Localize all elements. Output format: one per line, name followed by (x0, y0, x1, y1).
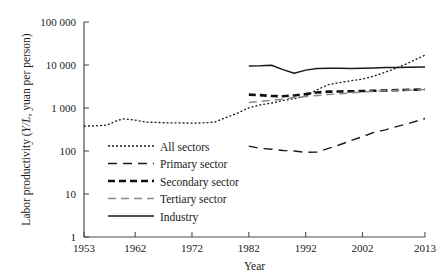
y-axis-title: Labor productivity (Y/L, yuan per person… (20, 33, 33, 225)
legend-label: Tertiary sector (160, 193, 227, 206)
y-axis-tick-label: 10 000 (46, 59, 77, 71)
legend-label: Primary sector (160, 158, 228, 171)
x-axis-tick-label: 1972 (181, 242, 203, 254)
x-axis-tick-label: 1992 (295, 242, 317, 254)
legend-item-all-sectors[interactable]: All sectors (108, 141, 210, 153)
legend-item-primary-sector[interactable]: Primary sector (108, 158, 228, 171)
x-axis-tick-label: 2013 (414, 242, 437, 254)
x-axis-tick-label: 1982 (238, 242, 260, 254)
y-axis-title-prefix: Labor productivity ( (20, 132, 33, 225)
y-axis-tick-label: 100 000 (40, 16, 76, 28)
legend-label: All sectors (160, 141, 210, 153)
x-axis-tick-label: 1953 (73, 242, 96, 254)
series-line-primary-sector (249, 119, 425, 153)
y-axis-tick-label: 10 (65, 188, 77, 200)
x-axis-tick-label: 1962 (124, 242, 146, 254)
y-axis-title-symbol: Y/L (20, 116, 32, 132)
y-axis-tick-label: 100 (60, 145, 77, 157)
legend-item-industry[interactable]: Industry (108, 211, 199, 224)
x-axis-tick-label: 2002 (351, 242, 373, 254)
series-line-industry (249, 65, 425, 73)
legend-item-secondary-sector[interactable]: Secondary sector (108, 176, 239, 189)
legend-item-tertiary-sector[interactable]: Tertiary sector (108, 193, 227, 206)
chart-container: 100 00010 0001 0001001011953196219721982… (0, 0, 437, 277)
legend-label: Industry (160, 211, 199, 224)
labor-productivity-chart: 100 00010 0001 0001001011953196219721982… (0, 0, 437, 277)
y-axis-title-suffix: , yuan per person) (20, 33, 33, 116)
y-axis-tick-label: 1 000 (51, 102, 76, 114)
legend-label: Secondary sector (160, 176, 239, 189)
x-axis-title: Year (244, 260, 265, 272)
